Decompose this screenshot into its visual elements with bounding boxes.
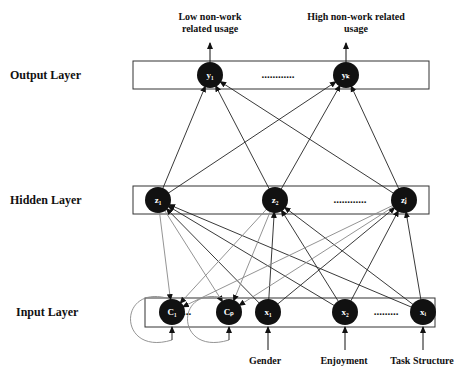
node-label-C1: C₁ <box>167 307 176 317</box>
node-label-yk: yₖ <box>342 70 351 80</box>
input-label-enjoyment: Enjoyment <box>320 355 368 366</box>
input-label-gender: Gender <box>249 355 282 366</box>
output-label-low-line2: related usage <box>182 23 239 34</box>
edge-xi-to-z2 <box>285 207 421 310</box>
edge-x2-to-z2 <box>281 210 343 310</box>
input-layer-label: Input Layer <box>16 305 79 319</box>
edge-z1-to-y1 <box>159 86 205 198</box>
edge-zj-to-C1 <box>183 201 402 307</box>
edge-zj-to-y1 <box>220 81 402 198</box>
edge-zj-to-yk <box>351 86 403 198</box>
hidden-ellipsis: ............ <box>334 193 367 205</box>
node-label-y1: y₁ <box>206 70 214 80</box>
edge-z2-to-C1 <box>180 202 273 303</box>
node-label-x1: x₁ <box>264 307 272 317</box>
hidden-layer-label: Hidden Layer <box>10 193 82 207</box>
input-label-task-structure: Task Structure <box>390 355 454 366</box>
node-label-x2: x₂ <box>341 307 349 317</box>
nodes-group: y₁yₖz₁z₂zⱼC₁Cₚx₁x₂xᵢ <box>145 62 436 325</box>
node-label-z2: z₂ <box>272 195 279 205</box>
node-label-xi: xᵢ <box>420 307 427 317</box>
edge-xi-to-zj <box>406 212 423 310</box>
output-label-low-line1: Low non-work <box>178 11 242 22</box>
input-ellipsis: ......... <box>374 305 399 317</box>
output-label-high-line1: High non-work related <box>307 11 405 22</box>
edge-z2-to-yk <box>276 85 340 197</box>
edge-x1-to-z2 <box>268 212 274 309</box>
output-label-high-line2: usage <box>344 23 368 34</box>
node-label-zj: zⱼ <box>401 195 407 205</box>
edge-z2-to-Cp <box>234 202 274 300</box>
output-ellipsis: ............ <box>262 68 295 80</box>
edge-x1-to-z1 <box>166 209 266 311</box>
node-label-Cp: Cₚ <box>224 307 235 317</box>
neural-network-diagram: Output Layer Hidden Layer Input Layer Lo… <box>0 0 466 377</box>
edge-z2-to-y1 <box>216 86 274 198</box>
edges-group <box>158 81 422 310</box>
node-label-z1: z₁ <box>155 195 162 205</box>
edge-x1-to-zj <box>270 208 395 311</box>
output-layer-label: Output Layer <box>10 68 82 82</box>
edge-zj-to-Cp <box>239 201 402 305</box>
